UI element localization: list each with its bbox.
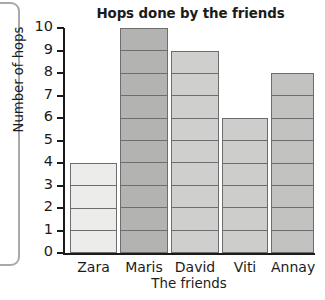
x-axis-label-maris: Maris xyxy=(120,259,168,275)
bar-unit-segment xyxy=(71,230,116,252)
bar-unit-segment xyxy=(121,230,167,252)
y-axis-tick: 10 xyxy=(57,27,64,29)
plot-area: 10 9 8 7 6 5 4 3 2 1 0 xyxy=(63,28,315,253)
y-axis-tick-label: 10 xyxy=(27,17,53,35)
bar-unit-segment xyxy=(223,163,267,185)
bar-zara[interactable] xyxy=(70,163,117,253)
y-axis-tick-label: 2 xyxy=(27,197,53,215)
bar-unit-segment xyxy=(121,185,167,207)
bar-unit-segment xyxy=(272,95,313,117)
bar-unit-segment xyxy=(172,185,218,207)
chart-title: Hops done by the friends xyxy=(63,6,318,21)
y-axis-tick: 3 xyxy=(57,185,64,187)
bar-unit-segment xyxy=(121,140,167,162)
y-axis-tick: 5 xyxy=(57,140,64,142)
bar-unit-segment xyxy=(71,185,116,207)
bar-unit-segment xyxy=(172,162,218,184)
y-axis-tick: 7 xyxy=(57,95,64,97)
bar-unit-segment xyxy=(172,51,218,72)
bar-unit-segment xyxy=(223,207,267,229)
y-axis-tick: 8 xyxy=(57,72,64,74)
x-axis-line xyxy=(63,253,315,255)
bar-unit-segment xyxy=(172,230,218,252)
bar-unit-segment xyxy=(272,140,313,162)
y-axis-tick-label: 4 xyxy=(27,152,53,170)
y-axis-tick: 9 xyxy=(57,50,64,52)
bar-unit-segment xyxy=(121,29,167,50)
y-axis-tick-label: 8 xyxy=(27,62,53,80)
y-axis-tick-label: 9 xyxy=(27,40,53,58)
bar-maris[interactable] xyxy=(120,28,168,253)
y-axis-tick-label: 7 xyxy=(27,85,53,103)
bar-unit-segment xyxy=(272,74,313,95)
x-axis-label-zara: Zara xyxy=(70,259,117,275)
x-axis-label-david: David xyxy=(171,259,219,275)
bar-unit-segment xyxy=(172,207,218,229)
bar-unit-segment xyxy=(121,73,167,95)
x-axis-label-viti: Viti xyxy=(222,259,268,275)
bar-unit-segment xyxy=(71,208,116,230)
bar-unit-segment xyxy=(223,119,267,140)
y-axis-tick-label: 3 xyxy=(27,175,53,193)
x-axis-title: The friends xyxy=(63,276,315,291)
bar-unit-segment xyxy=(172,95,218,117)
bar-annay[interactable] xyxy=(271,73,314,253)
bar-unit-segment xyxy=(172,140,218,162)
y-axis-title: Number of hops xyxy=(11,20,26,140)
bar-unit-segment xyxy=(121,50,167,72)
bar-unit-segment xyxy=(121,95,167,117)
bar-unit-segment xyxy=(172,73,218,95)
y-axis-tick-label: 0 xyxy=(27,242,53,260)
y-axis-tick: 2 xyxy=(57,207,64,209)
bar-unit-segment xyxy=(272,163,313,185)
y-axis-tick: 6 xyxy=(57,117,64,119)
y-axis-tick-label: 1 xyxy=(27,220,53,238)
bar-unit-segment xyxy=(272,185,313,207)
bar-unit-segment xyxy=(121,162,167,184)
bar-david[interactable] xyxy=(171,51,219,254)
bar-unit-segment xyxy=(223,230,267,252)
bar-unit-segment xyxy=(121,207,167,229)
bar-unit-segment xyxy=(272,118,313,140)
y-axis-tick-label: 5 xyxy=(27,130,53,148)
bar-unit-segment xyxy=(172,118,218,140)
bar-unit-segment xyxy=(272,207,313,229)
bar-unit-segment xyxy=(121,118,167,140)
bar-chart: Hops done by the friends Number of hops … xyxy=(0,0,325,300)
bar-unit-segment xyxy=(223,185,267,207)
bar-unit-segment xyxy=(71,164,116,185)
y-axis-tick-label: 6 xyxy=(27,107,53,125)
y-axis-tick: 0 xyxy=(57,252,64,254)
x-axis-label-annay: Annay xyxy=(271,259,314,275)
bar-viti[interactable] xyxy=(222,118,268,253)
bar-unit-segment xyxy=(272,230,313,252)
bar-unit-segment xyxy=(223,140,267,162)
y-axis-tick: 1 xyxy=(57,230,64,232)
y-axis-tick: 4 xyxy=(57,162,64,164)
